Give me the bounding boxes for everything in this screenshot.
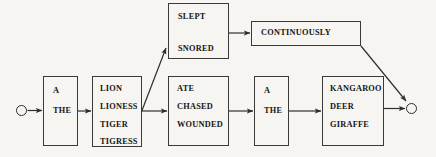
node-item: A: [53, 87, 77, 95]
node-item: THE: [53, 107, 77, 115]
node-item: GIRAFFE: [330, 121, 383, 129]
edge-subject-to-slept: [141, 48, 166, 113]
node-item: SNORED: [178, 45, 228, 53]
determiner-box-2[interactable]: A THE: [254, 76, 289, 146]
node-item: CHASED: [177, 103, 228, 111]
node-item-list: A THE: [255, 77, 288, 145]
node-item: ATE: [177, 85, 228, 93]
node-item-list: SLEPT SNORED: [169, 4, 228, 58]
node-item: KANGAROO: [330, 85, 383, 93]
node-item: TIGRESS: [100, 138, 141, 146]
node-item-list: CONTINUOUSLY: [252, 22, 360, 45]
start-node: [16, 105, 27, 116]
node-item-list: LION LIONESS TIGER TIGRESS: [93, 77, 141, 146]
node-item: LION: [100, 85, 141, 93]
node-item-list: KANGAROO DEER GIRAFFE: [323, 77, 383, 145]
node-item: SLEPT: [178, 13, 228, 21]
node-item-list: ATE CHASED WOUNDED: [169, 77, 228, 145]
adverb-box[interactable]: CONTINUOUSLY: [251, 21, 361, 46]
node-item: LIONESS: [100, 103, 141, 111]
node-item: WOUNDED: [177, 121, 228, 129]
node-item-list: A THE: [44, 77, 77, 145]
object-noun-box[interactable]: KANGAROO DEER GIRAFFE: [322, 76, 384, 146]
node-item: THE: [264, 107, 288, 115]
intransitive-verb-box[interactable]: SLEPT SNORED: [168, 3, 229, 59]
determiner-box-1[interactable]: A THE: [43, 76, 78, 146]
node-item: CONTINUOUSLY: [261, 29, 360, 37]
transitive-verb-box[interactable]: ATE CHASED WOUNDED: [168, 76, 229, 146]
node-item: A: [264, 87, 288, 95]
node-item: TIGER: [100, 121, 141, 129]
end-node: [406, 103, 417, 114]
sentence-network-diagram: SLEPT SNORED CONTINUOUSLY A THE LION LIO…: [0, 0, 436, 157]
subject-noun-box[interactable]: LION LIONESS TIGER TIGRESS: [92, 76, 142, 147]
node-item: DEER: [330, 103, 383, 111]
